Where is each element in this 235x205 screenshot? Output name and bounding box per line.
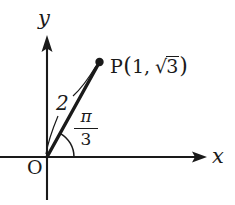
origin-label: O: [27, 158, 43, 177]
point-p-label: P ( 1 , √ 3 ): [110, 55, 188, 77]
angle-label: π 3: [74, 108, 98, 149]
point-p-marker: [95, 58, 103, 66]
close-paren: ): [179, 55, 188, 77]
point-name: P: [110, 57, 123, 76]
coordinate-diagram: y x O 2 π 3 P ( 1 , √ 3 ): [0, 0, 235, 205]
angle-denominator: 3: [74, 130, 98, 149]
x-axis-label: x: [212, 146, 224, 167]
radicand-group: 3: [166, 57, 179, 76]
radicand-value: 3: [166, 55, 178, 77]
radical-overbar: [166, 56, 179, 57]
angle-arc: [61, 134, 75, 157]
radius-length-label: 2: [56, 93, 69, 113]
angle-numerator: π: [74, 108, 98, 127]
open-paren: (: [123, 55, 132, 77]
x-coordinate-value: 1: [132, 57, 144, 76]
coordinate-comma: ,: [144, 57, 150, 76]
y-axis-label: y: [38, 8, 50, 29]
square-root-group: √ 3: [155, 57, 179, 76]
